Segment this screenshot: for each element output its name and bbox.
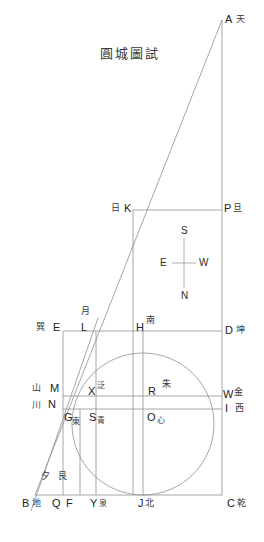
point-label-C: C <box>227 498 235 509</box>
point-han-L: 月 <box>81 307 90 316</box>
point-label-J: J <box>138 498 144 509</box>
point-label-K: K <box>124 203 131 214</box>
figure-title: 圓城圖試 <box>100 43 160 62</box>
point-label-A: A <box>225 14 232 25</box>
point-han-N: 川 <box>32 401 41 410</box>
point-han-G: 東 <box>72 418 80 426</box>
point-label-I: I <box>225 403 228 414</box>
point-han-B: 地 <box>32 499 41 508</box>
point-label-X: X <box>88 386 95 397</box>
point-label-D: D <box>225 325 233 336</box>
point-label-O: O <box>147 412 156 423</box>
point-han-Q: 夕 <box>41 472 50 481</box>
point-label-R: R <box>148 386 156 397</box>
compass-label-north: N <box>181 291 188 301</box>
point-han-S: 青 <box>97 417 105 425</box>
point-label-W: W <box>223 389 233 400</box>
point-label-B: B <box>22 498 29 509</box>
point-label-E: E <box>53 322 60 333</box>
point-han-Y: 泉 <box>99 500 107 508</box>
point-han-E: 巽 <box>36 323 45 332</box>
compass-label-west: W <box>199 258 208 268</box>
point-label-N: N <box>48 399 56 410</box>
compass-label-south: S <box>181 226 188 236</box>
point-han-F: 艮 <box>58 472 67 481</box>
point-label-S: S <box>89 412 96 423</box>
point-label-H: H <box>136 322 144 333</box>
point-label-P: P <box>224 203 231 214</box>
point-label-Q: Q <box>52 498 61 509</box>
point-han-X: 泛 <box>97 382 105 390</box>
point-han-I: 西 <box>235 404 244 413</box>
diagram-canvas <box>0 0 264 542</box>
point-han-P: 旦 <box>233 204 242 213</box>
point-han-A: 天 <box>236 15 245 24</box>
point-han-D: 坤 <box>236 326 245 335</box>
point-label-Y: Y <box>90 498 97 509</box>
point-label-F: F <box>66 498 73 509</box>
point-han-K: 日 <box>111 204 120 213</box>
point-han-M: 山 <box>32 384 41 393</box>
point-han-J: 北 <box>145 499 154 508</box>
point-han-R: 朱 <box>162 380 171 389</box>
point-han-C: 乾 <box>237 499 246 508</box>
point-han-H: 南 <box>146 316 155 325</box>
yuan-cheng-tu-shi-figure: 圓城圖試 A 天 日 K P 旦 S N E W 月 L 巽 E H 南 D 坤… <box>0 0 264 542</box>
compass-label-east: E <box>160 258 167 268</box>
point-han-O: 心 <box>157 417 165 425</box>
point-label-M: M <box>50 383 59 394</box>
point-han-W: 金 <box>234 388 243 397</box>
point-label-L: L <box>81 322 87 333</box>
